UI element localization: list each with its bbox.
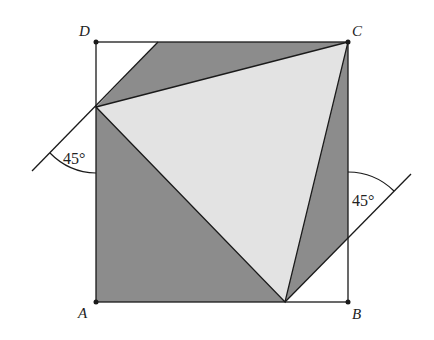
vertex-label-D: D <box>78 23 90 39</box>
angle-arc-right <box>348 172 394 191</box>
geometry-diagram: D C A B 45° 45° <box>0 0 434 340</box>
vertex-label-A: A <box>77 305 88 321</box>
vertex-label-C: C <box>352 23 363 39</box>
vertex-dot-A <box>94 300 99 305</box>
angle-label-left: 45° <box>63 150 85 167</box>
vertex-label-B: B <box>352 306 361 322</box>
vertex-dot-C <box>346 40 351 45</box>
angle-label-right: 45° <box>352 192 374 209</box>
vertex-dot-D <box>94 40 99 45</box>
vertex-dot-B <box>346 300 351 305</box>
